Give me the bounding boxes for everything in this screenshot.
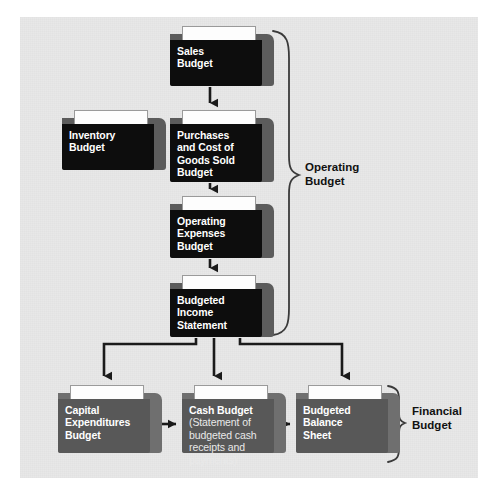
folder-label: Budgeted Income Statement	[177, 294, 258, 331]
folder-operating-expenses-budget[interactable]: Operating Expenses Budget	[170, 196, 274, 258]
folder-label: Cash Budget	[189, 404, 270, 416]
group-label-financial-budget: Financial Budget	[412, 404, 462, 432]
folder-front-panel: Cash Budget (Statement of budgeted cash …	[182, 399, 274, 453]
folder-front-panel: Sales Budget	[170, 40, 262, 86]
folder-cash-budget[interactable]: Cash Budget (Statement of budgeted cash …	[182, 385, 286, 453]
folder-inventory-budget[interactable]: Inventory Budget	[62, 110, 166, 170]
folder-sublabel: (Statement of budgeted cash receipts and…	[189, 416, 270, 466]
brace-operating-budget	[273, 31, 299, 335]
folder-label: Purchases and Cost of Goods Sold Budget	[177, 129, 258, 179]
group-label-operating-budget: Operating Budget	[305, 160, 359, 188]
connector-income-statement-to-balance-sheet	[240, 338, 342, 376]
folder-sales-budget[interactable]: Sales Budget	[170, 26, 274, 86]
folder-capital-expenditures-budget[interactable]: Capital Expenditures Budget	[58, 385, 162, 453]
folder-front-panel: Inventory Budget	[62, 124, 154, 170]
folder-purchases-and-cost-of-goods-sold-budget[interactable]: Purchases and Cost of Goods Sold Budget	[170, 110, 274, 182]
folder-label: Operating Expenses Budget	[177, 215, 258, 252]
folder-label: Capital Expenditures Budget	[65, 404, 146, 441]
diagram-canvas: Sales Budget Inventory Budget Purchases …	[0, 0, 496, 490]
folder-front-panel: Capital Expenditures Budget	[58, 399, 150, 453]
folder-label: Sales Budget	[177, 45, 258, 70]
folder-label: Budgeted Balance Sheet	[303, 404, 384, 441]
folder-budgeted-balance-sheet[interactable]: Budgeted Balance Sheet	[296, 385, 400, 453]
folder-front-panel: Budgeted Income Statement	[170, 289, 262, 337]
connector-income-statement-to-capital-expenditures	[104, 338, 196, 376]
folder-front-panel: Budgeted Balance Sheet	[296, 399, 388, 453]
folder-label: Inventory Budget	[69, 129, 150, 154]
folder-budgeted-income-statement[interactable]: Budgeted Income Statement	[170, 275, 274, 337]
folder-front-panel: Operating Expenses Budget	[170, 210, 262, 258]
folder-front-panel: Purchases and Cost of Goods Sold Budget	[170, 124, 262, 182]
